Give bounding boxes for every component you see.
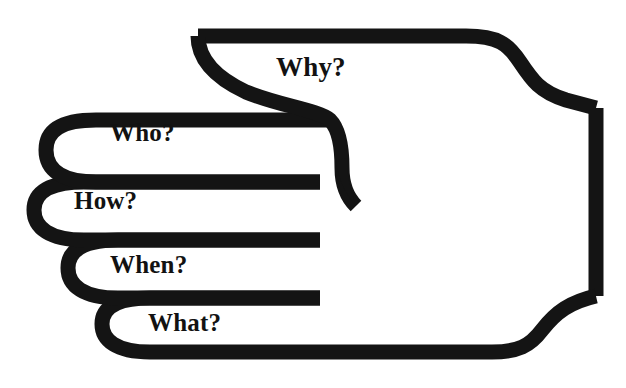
label-middle-how: How? xyxy=(74,188,137,213)
label-thumb-why: Why? xyxy=(276,54,346,81)
index-finger-outline xyxy=(46,120,330,182)
label-pinky-what: What? xyxy=(148,310,221,335)
label-index-who: Who? xyxy=(110,120,175,145)
ring-finger-outline xyxy=(68,240,320,298)
label-ring-when: When? xyxy=(110,252,187,277)
illustration-canvas: Why? Who? How? When? What? xyxy=(0,0,626,388)
